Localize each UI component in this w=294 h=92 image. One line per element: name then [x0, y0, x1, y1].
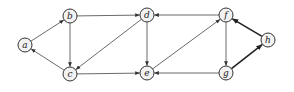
node-label: a	[22, 40, 27, 50]
edge-d-to-c	[76, 19, 141, 69]
edge-b-to-d	[77, 15, 140, 16]
node-f: f	[219, 8, 233, 22]
node-label: c	[67, 69, 72, 79]
node-e: e	[140, 66, 154, 80]
edges-layer	[31, 15, 262, 74]
node-h: h	[261, 33, 275, 47]
node-g: g	[219, 66, 233, 80]
node-a: a	[18, 38, 32, 52]
node-label: d	[144, 10, 150, 20]
nodes-layer: abcdefgh	[18, 8, 275, 81]
node-d: d	[140, 8, 154, 22]
node-label: e	[144, 68, 149, 78]
edge-c-to-a	[31, 49, 64, 70]
edge-c-to-e	[77, 73, 140, 74]
node-label: h	[265, 35, 271, 45]
node-c: c	[63, 67, 77, 81]
edge-e-to-f	[153, 19, 220, 68]
node-b: b	[63, 9, 77, 23]
edge-a-to-b	[31, 20, 64, 41]
directed-graph: abcdefgh	[0, 0, 294, 92]
node-label: b	[67, 11, 73, 21]
edge-g-to-h	[232, 45, 263, 69]
node-label: g	[223, 68, 229, 78]
edge-h-to-f	[232, 19, 262, 37]
